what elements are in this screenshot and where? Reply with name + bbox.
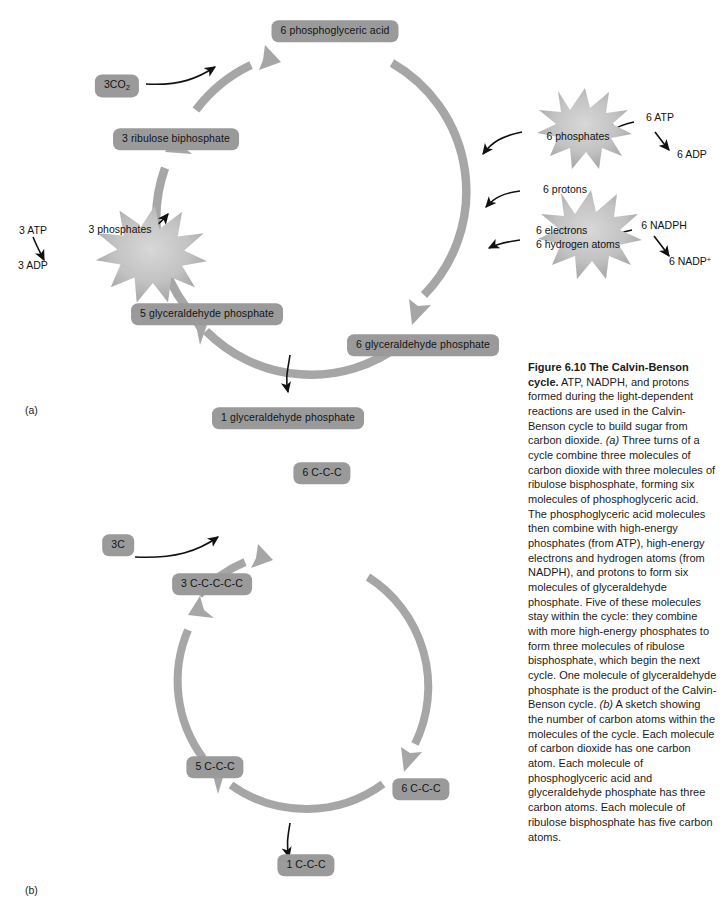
electrons-line-1: 6 electrons xyxy=(536,224,587,236)
arrow-3c-in xyxy=(135,537,218,557)
burst-3-phosphates xyxy=(96,205,207,302)
arrow-electrons-in xyxy=(489,240,520,248)
cycle-ring-a-arrowheads xyxy=(165,45,431,345)
arrow-protons-in xyxy=(486,191,520,207)
node-pga-b: 6 C-C-C xyxy=(293,462,350,484)
arrow-atp6-to-adp6 xyxy=(655,132,669,150)
caption-marker-b: (b) xyxy=(600,698,613,710)
cycle-ring-a xyxy=(156,63,466,375)
label-6-adp: 6 ADP xyxy=(677,148,707,161)
burst-label-3-phosphates: 3 phosphates xyxy=(88,223,151,236)
panel-letter-b: (b) xyxy=(25,884,38,896)
co2-base: 3CO xyxy=(104,78,126,90)
co2-subscript: 2 xyxy=(126,83,130,92)
caption-title-line2: cycle. xyxy=(528,376,559,388)
label-3-atp: 3 ATP xyxy=(19,224,47,237)
node-co2-b: 3C xyxy=(102,534,134,556)
caption-part-b: A sketch showing the number of carbon at… xyxy=(528,698,715,842)
node-phosphoglyceric-acid-a: 6 phosphoglyceric acid xyxy=(271,20,398,42)
arrow-co2-in xyxy=(146,67,215,84)
nadp-base: 6 NADP xyxy=(669,255,707,267)
label-6-nadp-plus: 6 NADP+ xyxy=(669,255,711,268)
label-6-nadph: 6 NADPH xyxy=(641,219,687,232)
arrow-atp6-in xyxy=(608,122,634,133)
arrow-nadph-to-nadp xyxy=(654,236,669,256)
node-carbon-dioxide-a: 3CO2 xyxy=(95,74,139,97)
caption-marker-a: (a) xyxy=(606,434,619,446)
node-gap6-b: 6 C-C-C xyxy=(392,778,449,800)
node-glyceraldehyde-phosphate-1-a: 1 glyceraldehyde phosphate xyxy=(212,407,364,429)
figure-caption: Figure 6.10 The Calvin-Bensoncycle. ATP,… xyxy=(528,360,718,844)
panel-letter-a: (a) xyxy=(25,404,38,416)
node-glyceraldehyde-phosphate-5-a: 5 glyceraldehyde phosphate xyxy=(131,303,283,325)
arrow-product-out-b xyxy=(287,823,290,857)
node-glyceraldehyde-phosphate-6-a: 6 glyceraldehyde phosphate xyxy=(347,334,499,356)
hydrogen-line-2: 6 hydrogen atoms xyxy=(536,238,620,250)
arrow-product-out-a xyxy=(287,355,290,392)
burst-label-6-electrons-hydrogen: 6 electrons6 hydrogen atoms xyxy=(536,224,620,251)
arrow-phosphates6-in xyxy=(483,132,522,154)
caption-part-a: Three turns of a cycle combine three mol… xyxy=(528,434,716,710)
burst-6-phosphates xyxy=(537,88,632,169)
label-6-protons: 6 protons xyxy=(543,183,587,196)
node-gap5-b: 5 C-C-C xyxy=(186,756,243,778)
node-ribulose-biphosphate-a: 3 ribulose biphosphate xyxy=(113,128,239,150)
arrow-atp3-to-adp3 xyxy=(33,237,44,260)
node-rubp-b: 3 C-C-C-C-C xyxy=(172,573,252,595)
burst-label-6-phosphates: 6 phosphates xyxy=(546,130,609,143)
node-gap1-b: 1 C-C-C xyxy=(277,854,334,876)
figure-6-10: 6 phosphoglyceric acid 3 ribulose biphos… xyxy=(0,0,728,911)
label-6-atp: 6 ATP xyxy=(646,111,674,124)
label-3-adp: 3 ADP xyxy=(18,259,48,272)
caption-title-line1: Figure 6.10 The Calvin-Benson xyxy=(528,361,689,373)
nadp-superscript: + xyxy=(707,255,711,264)
